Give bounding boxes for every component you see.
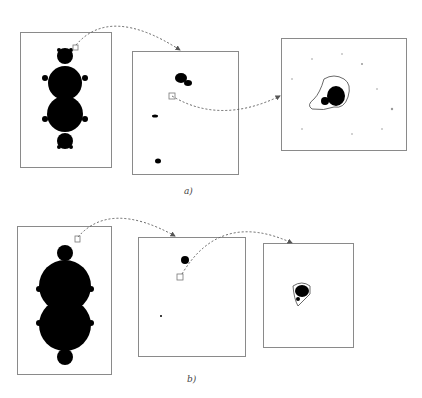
arrow-a2-to-a3 [172,96,280,111]
zoom-arrows [0,0,422,398]
arrow-b1-to-b2 [78,218,175,237]
arrow-a1-to-a2 [76,26,180,50]
arrow-b2-to-b3 [182,232,292,274]
